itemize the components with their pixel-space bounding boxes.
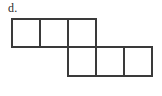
bottom-row-cell-3 bbox=[124, 47, 152, 76]
top-row-cell-2 bbox=[40, 19, 68, 47]
bottom-row-cell-1 bbox=[68, 47, 96, 76]
figure-container: d. bbox=[0, 0, 162, 96]
polyomino-net-diagram bbox=[0, 0, 162, 96]
top-row-cell-3 bbox=[68, 19, 96, 47]
top-row-cell-1 bbox=[12, 19, 40, 47]
bottom-row-cell-2 bbox=[96, 47, 124, 76]
